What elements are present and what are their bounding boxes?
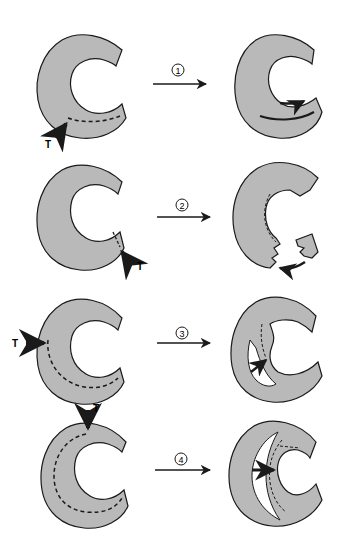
meniscus-intact-1 bbox=[37, 35, 126, 139]
meniscus-tear-diagram: T 1 T 2 T 3 bbox=[0, 0, 343, 552]
row-1: T 1 bbox=[37, 35, 322, 150]
tear-arrow-icon bbox=[122, 252, 131, 264]
row-2: T 2 bbox=[37, 163, 318, 272]
tear-label: T bbox=[93, 403, 99, 414]
row-3: T 3 bbox=[12, 297, 322, 404]
tear-label: T bbox=[137, 261, 143, 272]
meniscus-torn-2-fragment bbox=[296, 234, 318, 258]
tear-label: T bbox=[45, 139, 51, 150]
step-number: 3 bbox=[179, 329, 184, 339]
displacement-arrow-icon bbox=[280, 262, 305, 269]
step-number: 4 bbox=[178, 455, 183, 465]
tear-label: T bbox=[12, 338, 18, 349]
meniscus-torn-3 bbox=[231, 297, 322, 402]
step-number: 1 bbox=[175, 66, 180, 76]
meniscus-intact-2 bbox=[37, 165, 124, 270]
meniscus-torn-1 bbox=[235, 35, 322, 138]
step-number: 2 bbox=[179, 201, 184, 211]
displacement-arrow-icon bbox=[280, 101, 304, 104]
meniscus-intact-3 bbox=[37, 299, 124, 404]
row-4: T 4 bbox=[41, 403, 322, 528]
